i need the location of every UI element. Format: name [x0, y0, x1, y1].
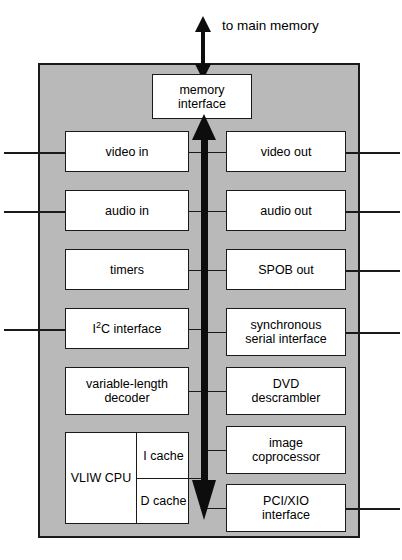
block-timers: timers	[65, 249, 189, 290]
block-label: DVD descrambler	[252, 377, 321, 405]
block-image-coprocessor: image coprocessor	[226, 426, 346, 474]
block-vliw-cpu: VLIW CPU I cache D cache	[65, 432, 189, 524]
block-label: video out	[261, 145, 312, 159]
vliw-cpu-core: VLIW CPU	[66, 433, 136, 523]
external-pin-audio-in	[4, 211, 66, 213]
lead-bus-to-spob-out	[205, 270, 227, 271]
bus-arrow-down-head	[192, 480, 216, 520]
block-dvd-descrambler: DVD descrambler	[226, 367, 346, 415]
lead-bus-to-video-out	[205, 152, 227, 153]
external-pin-i2c-interface	[4, 329, 66, 331]
block-spob-out: SPOB out	[226, 249, 346, 290]
block-i2c-interface: I2C interface	[65, 308, 189, 349]
block-diagram-canvas: to main memory memory interface video in…	[0, 0, 402, 560]
lead-bus-to-image-coprocessor	[205, 450, 227, 451]
external-pin-video-in	[4, 152, 66, 154]
block-synchronous-serial-interface: synchronous serial interface	[226, 308, 346, 356]
block-label: memory interface	[178, 83, 226, 111]
external-pin-synchronous-serial-interface	[345, 332, 400, 334]
vliw-cpu-instruction-cache: I cache	[136, 433, 190, 478]
block-label: I cache	[143, 449, 183, 463]
bus-arrow-up-head	[192, 114, 216, 140]
to-main-memory-label: to main memory	[222, 18, 319, 33]
block-pci-xio-interface: PCI/XIO interface	[226, 484, 346, 532]
block-label: D cache	[141, 494, 187, 508]
lead-bus-to-ssi	[205, 332, 227, 333]
block-label: audio out	[260, 204, 311, 218]
lead-bus-to-dvd-descrambler	[205, 391, 227, 392]
vliw-cpu-data-cache: D cache	[136, 478, 190, 523]
block-label: VLIW CPU	[71, 471, 131, 485]
external-pin-spob-out	[345, 270, 400, 272]
external-pin-audio-out	[345, 211, 400, 213]
lead-bus-to-audio-out	[205, 211, 227, 212]
block-label: variable-length decoder	[86, 377, 168, 405]
internal-bus-shaft	[201, 130, 208, 490]
block-label: image coprocessor	[252, 436, 320, 464]
block-label: video in	[105, 145, 148, 159]
block-label: timers	[110, 263, 144, 277]
block-label: I2C interface	[93, 322, 162, 336]
block-memory-interface: memory interface	[152, 74, 252, 119]
external-pin-video-out	[345, 152, 400, 154]
block-label: PCI/XIO interface	[262, 494, 310, 522]
block-variable-length-decoder: variable-length decoder	[65, 367, 189, 415]
block-audio-out: audio out	[226, 190, 346, 231]
block-label: audio in	[105, 204, 149, 218]
external-pin-pci-xio-interface	[345, 508, 400, 510]
block-label: synchronous serial interface	[245, 318, 326, 346]
block-audio-in: audio in	[65, 190, 189, 231]
block-video-out: video out	[226, 131, 346, 172]
block-label: SPOB out	[258, 263, 314, 277]
block-video-in: video in	[65, 131, 189, 172]
